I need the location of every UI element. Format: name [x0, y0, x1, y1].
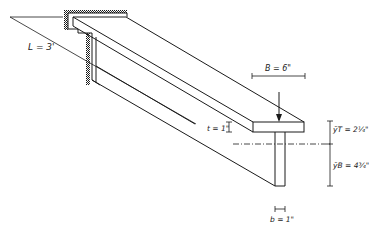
flange-width-label: B = 6": [265, 64, 291, 73]
diagram-canvas: L = 3' B = 6" t = 1": [0, 0, 378, 231]
t-beam: [73, 17, 304, 186]
y-bottom-label: ȳB = 4¾": [332, 161, 369, 170]
point-load-arrow: [276, 92, 282, 122]
web-width-label: b = 1": [270, 215, 294, 224]
flange-width-dimension: [252, 73, 305, 79]
y-top-label: ȳT = 2¼": [332, 125, 369, 134]
web-width-dimension: [275, 206, 285, 212]
length-label: L = 3': [28, 42, 54, 52]
flange-thickness-label: t = 1": [207, 124, 229, 133]
